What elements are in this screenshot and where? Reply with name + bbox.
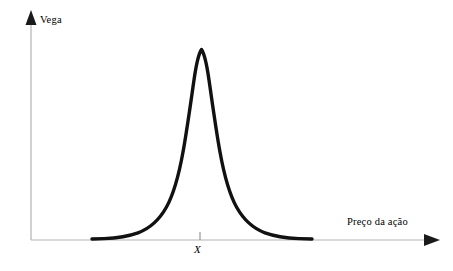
x-axis-arrow-icon — [424, 234, 440, 246]
y-axis-arrow-icon — [26, 10, 37, 25]
x-axis-label: Preço da ação — [347, 216, 408, 227]
chart-canvas — [0, 0, 453, 271]
vega-vs-stock-price-chart: Vega Preço da ação X — [0, 0, 453, 271]
y-axis-label: Vega — [40, 14, 62, 25]
strike-tick-label: X — [194, 243, 201, 255]
vega-curve — [92, 50, 312, 240]
